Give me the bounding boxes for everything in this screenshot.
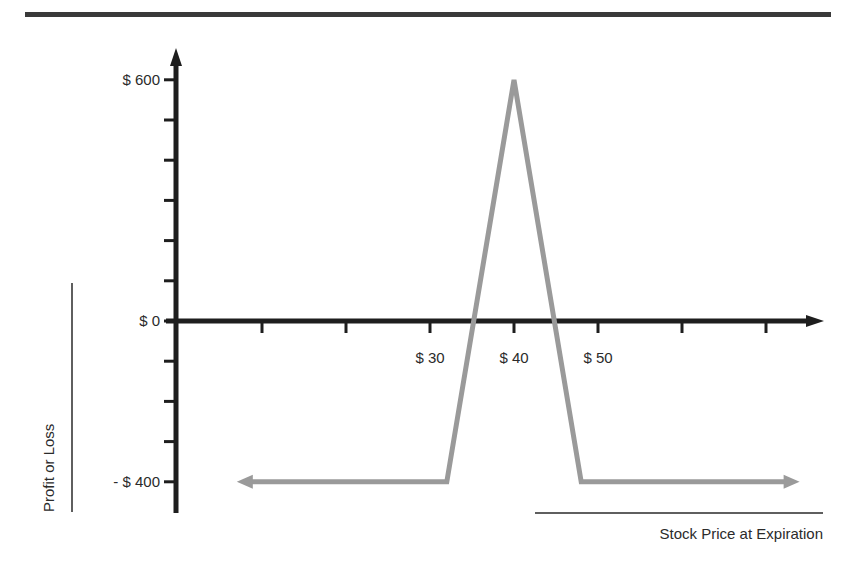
x-tick-label: $ 30	[400, 349, 460, 366]
y-axis-arrow-icon	[170, 48, 182, 66]
y-axis	[164, 48, 182, 513]
y-tick-label: $ 600	[80, 71, 160, 88]
x-axis	[166, 315, 824, 333]
x-tick-label: $ 50	[568, 349, 628, 366]
payoff-series	[237, 80, 800, 489]
right-arrow-icon	[784, 475, 800, 489]
y-tick-label: - $ 400	[80, 473, 160, 490]
header-rule	[25, 12, 831, 17]
y-axis-title: Profit or Loss	[40, 424, 57, 512]
left-arrow-icon	[237, 475, 253, 489]
x-tick-label: $ 40	[484, 349, 544, 366]
x-axis-title: Stock Price at Expiration	[660, 525, 823, 542]
y-tick-label: $ 0	[80, 312, 160, 329]
x-axis-arrow-icon	[806, 315, 824, 327]
